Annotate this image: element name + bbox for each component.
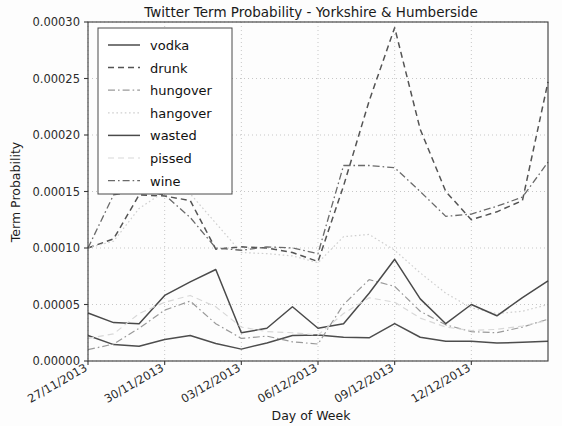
chart-title: Twitter Term Probability - Yorkshire & H… bbox=[143, 4, 477, 20]
legend-label-vodka[interactable]: vodka bbox=[150, 38, 189, 53]
y-axis-title: Term Probability bbox=[8, 141, 23, 243]
y-tick-label: 0.00020 bbox=[32, 128, 80, 142]
y-tick-label: 0.00010 bbox=[32, 241, 80, 255]
legend-label-wasted[interactable]: wasted bbox=[150, 128, 197, 143]
x-axis-title: Day of Week bbox=[272, 408, 352, 423]
y-tick-label: 0.00015 bbox=[32, 185, 80, 199]
legend-label-pissed[interactable]: pissed bbox=[150, 151, 192, 166]
figure-background bbox=[0, 0, 562, 426]
line-chart: Twitter Term Probability - Yorkshire & H… bbox=[0, 0, 562, 426]
legend-label-drunk[interactable]: drunk bbox=[150, 61, 188, 76]
chart-legend[interactable]: vodkadrunkhungoverhangoverwastedpissedwi… bbox=[98, 28, 232, 194]
legend-label-hungover[interactable]: hungover bbox=[150, 83, 213, 98]
y-tick-label: 0.00030 bbox=[32, 15, 80, 29]
chart-figure: Twitter Term Probability - Yorkshire & H… bbox=[0, 0, 562, 426]
legend-label-wine[interactable]: wine bbox=[150, 174, 180, 189]
y-tick-label: 0.00025 bbox=[32, 72, 80, 86]
y-tick-label: 0.00005 bbox=[32, 298, 80, 312]
legend-label-hangover[interactable]: hangover bbox=[150, 106, 212, 121]
